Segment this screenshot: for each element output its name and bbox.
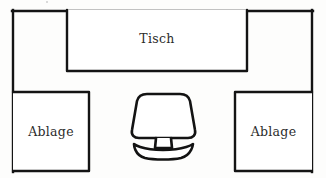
shelf-left-label: Ablage — [12, 124, 90, 139]
chair-backrest — [132, 94, 195, 138]
shelf-right-label: Ablage — [234, 124, 313, 139]
chair-shape — [132, 94, 195, 160]
floor-plan-canvas — [0, 0, 326, 178]
floor-plan-diagram: Tisch Ablage Ablage — [0, 0, 326, 178]
chair-stem — [155, 138, 172, 148]
desk-label: Tisch — [67, 31, 247, 46]
